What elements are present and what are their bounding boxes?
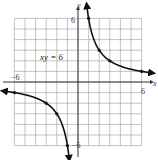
data-point bbox=[13, 91, 16, 94]
hyperbola-branch bbox=[87, 5, 152, 73]
data-point bbox=[55, 112, 58, 115]
x-axis-label: x bbox=[152, 79, 157, 88]
y-min-tick-label: −6 bbox=[72, 141, 81, 150]
data-point bbox=[87, 17, 90, 20]
hyperbola-graph: y x 6 −6 −6 6 xy = 6 bbox=[0, 0, 158, 160]
axes bbox=[3, 8, 152, 157]
y-axis-label: y bbox=[76, 1, 81, 10]
hyperbola-branch bbox=[4, 91, 69, 159]
equation-label: xy = 6 bbox=[39, 52, 64, 62]
data-point bbox=[98, 49, 101, 52]
data-point bbox=[140, 70, 143, 73]
data-point bbox=[45, 102, 48, 105]
x-min-tick-label: −6 bbox=[11, 73, 20, 82]
labels: y x 6 −6 −6 6 xy = 6 bbox=[11, 1, 157, 150]
x-max-tick-label: 6 bbox=[141, 87, 145, 96]
data-point bbox=[66, 144, 69, 147]
data-point bbox=[108, 59, 111, 62]
y-max-tick-label: 6 bbox=[71, 16, 75, 25]
